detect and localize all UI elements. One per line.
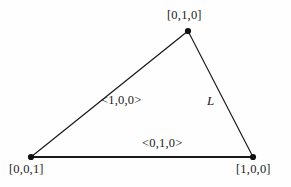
vertex-label-bottom-left: [0,0,1] [9,163,44,176]
figure-canvas: [0,1,0] [0,0,1] [1,0,0] <1,0,0> <0,1,0> … [0,0,291,187]
vertex-dot-bottom-left [28,154,34,160]
vertex-label-top: [0,1,0] [167,9,202,22]
vertex-dot-top [185,28,191,34]
edge-label-right: L [207,94,214,107]
edge-label-left: <1,0,0> [101,94,142,107]
vertex-label-bottom-right: [1,0,0] [236,163,271,176]
edge-label-bottom: <0,1,0> [142,137,183,150]
vertex-dot-bottom-right [250,154,256,160]
triangle-diagram [0,0,291,187]
